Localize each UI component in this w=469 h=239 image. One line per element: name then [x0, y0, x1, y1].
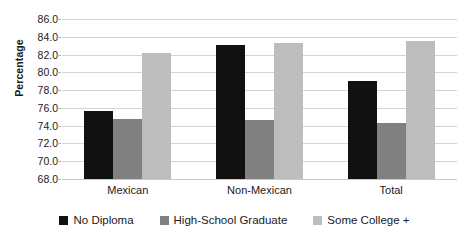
y-axis-tick-label: 86.0 [6, 14, 58, 25]
bar [348, 81, 377, 179]
bar [406, 41, 435, 179]
bar-group [194, 19, 326, 179]
y-axis-tick-label: 68.0 [6, 174, 58, 185]
y-axis-tick-mark [57, 161, 61, 162]
legend-label: No Diploma [73, 214, 133, 226]
legend-swatch-icon [59, 216, 68, 225]
y-axis-tick-label: 74.0 [6, 121, 58, 132]
y-axis-tick-mark [57, 179, 61, 180]
bar [377, 123, 406, 179]
y-axis-tick-mark [57, 90, 61, 91]
legend-item[interactable]: Some College + [313, 214, 409, 226]
plot-area [62, 19, 457, 179]
bar-chart: Percentage 86.084.082.080.078.076.074.07… [0, 0, 469, 239]
legend-item[interactable]: No Diploma [59, 214, 133, 226]
bar-group [325, 19, 457, 179]
bar-group [62, 19, 194, 179]
legend-swatch-icon [160, 216, 169, 225]
x-axis-category-label: Non-Mexican [194, 183, 326, 197]
bar [274, 43, 303, 179]
x-axis-category-label: Mexican [62, 183, 194, 197]
y-axis-tick-label: 78.0 [6, 85, 58, 96]
y-axis-tick-label: 76.0 [6, 103, 58, 114]
y-axis-tick-mark [57, 143, 61, 144]
legend-swatch-icon [313, 216, 322, 225]
y-axis-tick-mark [57, 72, 61, 73]
x-axis-baseline [62, 179, 457, 180]
y-axis-tick-label: 70.0 [6, 156, 58, 167]
y-axis-tick-mark [57, 37, 61, 38]
legend-label: Some College + [327, 214, 409, 226]
bar [142, 53, 171, 179]
y-axis-tick-label: 72.0 [6, 138, 58, 149]
y-axis-tick-label: 80.0 [6, 67, 58, 78]
bar [84, 111, 113, 179]
y-axis-tick-mark [57, 126, 61, 127]
chart-legend: No DiplomaHigh-School GraduateSome Colle… [0, 210, 469, 230]
legend-label: High-School Graduate [174, 214, 288, 226]
bar [245, 120, 274, 179]
y-axis-tick-mark [57, 55, 61, 56]
bar [113, 119, 142, 179]
y-axis-tick-mark [57, 108, 61, 109]
legend-item[interactable]: High-School Graduate [160, 214, 288, 226]
y-axis-tick-label: 84.0 [6, 32, 58, 43]
y-axis-tick-label: 82.0 [6, 50, 58, 61]
x-axis-category-labels: MexicanNon-MexicanTotal [62, 183, 457, 199]
y-axis-tick-mark [57, 19, 61, 20]
bar [216, 45, 245, 179]
y-axis-tick-labels: 86.084.082.080.078.076.074.072.070.068.0 [0, 0, 58, 239]
x-axis-category-label: Total [325, 183, 457, 197]
